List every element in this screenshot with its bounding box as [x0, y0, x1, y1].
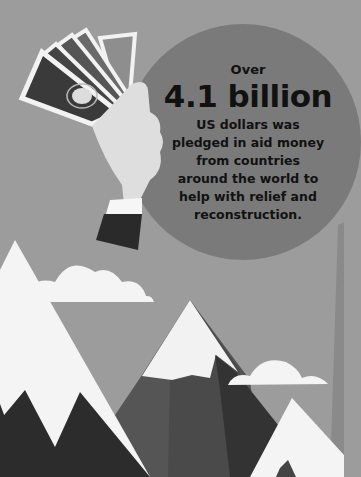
- stat-line: help with relief and: [150, 188, 346, 206]
- stat-callout: Over 4.1 billion US dollars was pledged …: [150, 62, 346, 224]
- stat-line: reconstruction.: [150, 206, 346, 224]
- stat-prefix: Over: [150, 62, 346, 78]
- stat-line: from countries: [150, 152, 346, 170]
- stat-line: around the world to: [150, 170, 346, 188]
- stat-line: pledged in aid money: [150, 134, 346, 152]
- stat-figure: 4.1 billion: [150, 79, 346, 113]
- stat-line: US dollars was: [150, 116, 346, 134]
- stat-description: US dollars was pledged in aid money from…: [150, 116, 346, 224]
